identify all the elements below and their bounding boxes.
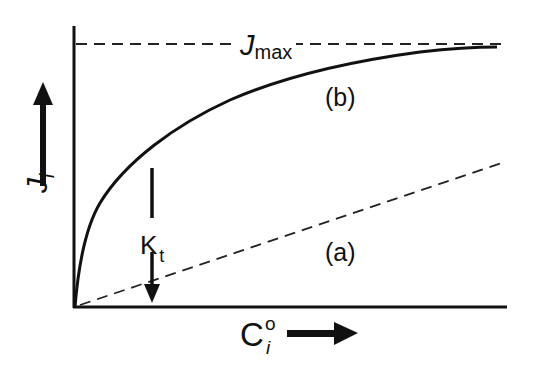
y-axis-label-sub: i xyxy=(36,174,58,178)
kt-label-main: K xyxy=(140,230,157,260)
jmax-label-sub: max xyxy=(255,41,293,63)
x-arrow-head-icon xyxy=(334,322,358,345)
kt-label: Kt xyxy=(140,232,164,258)
y-axis-label: Ji xyxy=(22,174,52,193)
curve-b-label: (b) xyxy=(325,85,356,110)
kt-label-sub: t xyxy=(159,246,164,266)
x-axis-label-main: C xyxy=(240,316,264,353)
saturation-curve-b xyxy=(75,47,497,307)
x-axis-label: Coi xyxy=(240,318,264,351)
line-a-label: (a) xyxy=(325,240,356,265)
x-arrow-shaft xyxy=(287,330,337,337)
y-axis-label-main: J xyxy=(20,178,53,193)
jmax-label-main: J xyxy=(240,29,255,61)
x-axis-label-sup: o xyxy=(265,314,276,333)
x-axis-label-sub: i xyxy=(266,338,270,357)
kt-arrow-head-icon xyxy=(144,284,160,303)
jmax-label: Jmax xyxy=(236,31,296,60)
y-arrow-head-icon xyxy=(33,82,53,105)
